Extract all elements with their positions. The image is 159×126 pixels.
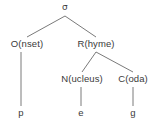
edge-rhyme-nucleus: [82, 52, 96, 72]
node-rhyme: R(hyme): [77, 38, 114, 49]
node-onset: O(nset): [11, 38, 43, 49]
node-segment-onset: p: [18, 107, 23, 118]
node-segment-coda: g: [130, 107, 135, 118]
edge-sigma-rhyme: [65, 16, 96, 37]
edge-sigma-onset: [27, 16, 65, 37]
syllable-tree-diagram: σ O(nset) R(hyme) N(ucleus) C(oda) p e g: [0, 0, 159, 126]
node-nucleus: N(ucleus): [61, 73, 103, 84]
node-syllable-sigma: σ: [62, 2, 68, 13]
node-segment-nucleus: e: [78, 107, 83, 118]
node-coda: C(oda): [118, 73, 148, 84]
edge-rhyme-coda: [96, 52, 133, 72]
